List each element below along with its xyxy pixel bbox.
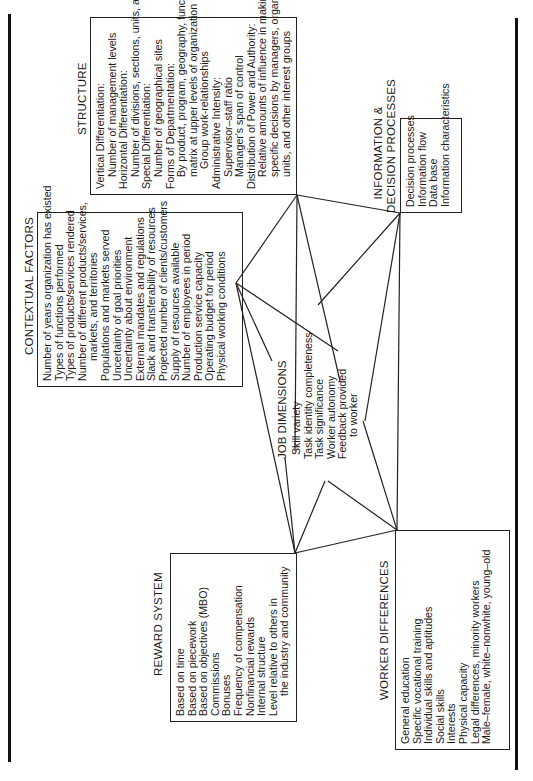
information-item: Information characteristics — [440, 124, 452, 207]
information-title: INFORMATION & DECISION PROCESSES — [372, 93, 397, 213]
structure-item: Administrative Intensity: — [211, 23, 223, 189]
contextual-item: Number of years organization has existed — [42, 218, 54, 381]
structure-title: STRUCTURE — [76, 62, 89, 135]
structure-item: Number of geographical sites — [153, 23, 165, 189]
worker-item: Male–female, white–nonwhite, young–old — [481, 536, 493, 744]
rotated-diagram-page: STRUCTURE Vertical Differentiation: Numb… — [0, 0, 533, 781]
contextual-factors-title: CONTEXTUAL FACTORS — [23, 217, 36, 355]
job-dimension-item: Task significance — [314, 332, 325, 459]
structure-box: Vertical Differentiation: Number of mana… — [90, 17, 297, 195]
reward-item: Internal structure — [256, 559, 268, 716]
reward-system-box: Based on time Based on piecework Based o… — [170, 553, 297, 722]
reward-item: the industry and community — [279, 559, 291, 716]
reward-system-title: REWARD SYSTEM — [152, 572, 165, 676]
contextual-factors-box: Number of years organization has existed… — [37, 212, 243, 387]
contextual-item: Uncertainty about environment — [123, 218, 135, 381]
job-dimensions-title: JOB DIMENSIONS — [277, 332, 288, 459]
information-box: Decision processes Information flow Data… — [400, 118, 462, 213]
job-dimensions: JOB DIMENSIONS Skill variety Task identi… — [277, 332, 360, 459]
information-item: Decision processes — [405, 124, 417, 207]
contextual-item: Projected number of clients/customers — [158, 218, 170, 381]
contextual-item: Physical working conditions — [216, 218, 228, 381]
worker-differences-title: WORKER DIFFERENCES — [378, 560, 391, 700]
structure-item: specific decisions by managers, organiza… — [269, 23, 281, 189]
job-dimension-item: to worker — [348, 332, 359, 459]
information-title-line2: DECISION PROCESSES — [385, 93, 398, 213]
information-title-line1: INFORMATION & — [372, 93, 385, 213]
structure-item: units, and other interest groups — [281, 23, 293, 189]
reward-item: Frequency of compensation — [233, 559, 245, 716]
worker-item: General education — [400, 536, 412, 744]
contextual-item: Number of employees in period — [181, 218, 193, 381]
structure-item: Vertical Differentiation: — [95, 23, 107, 189]
structure-item: By product, program, geography, function — [176, 23, 188, 189]
worker-item: Physical capacity — [458, 536, 470, 744]
reward-item: Based on time — [175, 559, 187, 716]
structure-item: Manager's span of control — [234, 23, 246, 189]
contextual-item: Populations and markets served — [100, 218, 112, 381]
worker-differences-box: General education Specific vocational tr… — [395, 530, 510, 750]
